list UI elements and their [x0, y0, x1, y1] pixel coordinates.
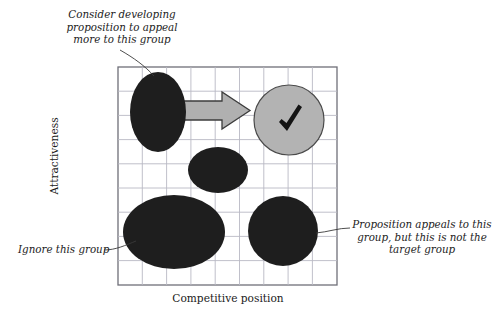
- bubble-bottom-left-group[interactable]: [123, 195, 225, 269]
- bubble-middle-group[interactable]: [188, 147, 248, 193]
- y-axis-label: Attractiveness: [48, 96, 60, 216]
- x-axis-label: Competitive position: [118, 292, 338, 304]
- annotation-right: Proposition appeals to this group, but t…: [352, 218, 492, 256]
- annotation-top-left: Consider developing proposition to appea…: [48, 8, 196, 46]
- bubble-bottom-right-group[interactable]: [248, 196, 318, 266]
- bubble-matrix-figure: [0, 0, 496, 319]
- bubble-top-left-group[interactable]: [130, 72, 186, 152]
- annotation-bottom-left: Ignore this group: [18, 243, 126, 256]
